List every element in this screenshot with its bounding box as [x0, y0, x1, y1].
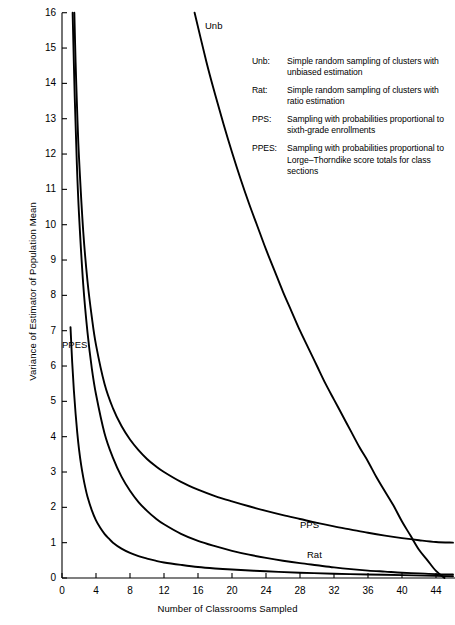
x-axis-title: Number of Classrooms Sampled [0, 603, 455, 614]
y-tick-label: 16 [30, 8, 56, 18]
curve-label-unb: Unb [205, 21, 222, 31]
curve-label-ppes: PPES [62, 340, 87, 350]
x-tick-label: 28 [287, 586, 313, 596]
y-tick-label: 1 [30, 538, 56, 548]
curve-label-pps: PPS [300, 520, 319, 530]
x-tick-label: 12 [151, 586, 177, 596]
legend-item: Unb:Simple random sampling of clusters w… [252, 56, 452, 79]
y-tick-label: 2 [30, 502, 56, 512]
x-tick-label: 24 [253, 586, 279, 596]
legend-item: Rat:Simple random sampling of clusters w… [252, 85, 452, 108]
curve-label-rat: Rat [307, 550, 322, 560]
legend-item: PPS:Sampling with probabilities proporti… [252, 114, 452, 137]
x-tick-label: 44 [423, 586, 449, 596]
chart-legend: Unb:Simple random sampling of clusters w… [252, 56, 452, 184]
curve-ppes [71, 327, 454, 576]
y-tick-label: 12 [30, 149, 56, 159]
y-tick-label: 4 [30, 432, 56, 442]
legend-item-key: Rat: [252, 85, 287, 108]
y-tick-label: 13 [30, 114, 56, 124]
x-tick-label: 36 [355, 586, 381, 596]
x-tick-label: 40 [389, 586, 415, 596]
legend-item-key: PPES: [252, 143, 287, 177]
y-tick-label: 15 [30, 43, 56, 53]
x-tick-label: 0 [49, 586, 75, 596]
y-tick-label: 14 [30, 78, 56, 88]
legend-item-key: Unb: [252, 56, 287, 79]
x-tick-label: 16 [185, 586, 211, 596]
x-tick-label: 4 [83, 586, 109, 596]
y-tick-label: 3 [30, 467, 56, 477]
legend-item-description: Simple random sampling of clusters with … [287, 56, 452, 79]
x-tick-label: 32 [321, 586, 347, 596]
x-tick-label: 20 [219, 586, 245, 596]
legend-item-description: Simple random sampling of clusters with … [287, 85, 452, 108]
chart-figure: 161514131211109876543210 048121620242832… [0, 0, 455, 625]
legend-item-description: Sampling with probabilities proportional… [287, 143, 452, 177]
y-axis-title: Variance of Estimator of Population Mean [27, 172, 38, 412]
legend-item: PPES:Sampling with probabilities proport… [252, 143, 452, 177]
y-tick-label: 0 [30, 573, 56, 583]
legend-item-key: PPS: [252, 114, 287, 137]
x-tick-label: 8 [117, 586, 143, 596]
legend-item-description: Sampling with probabilities proportional… [287, 114, 452, 137]
